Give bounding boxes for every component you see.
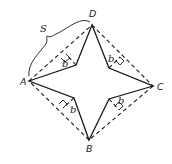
star-square-diagram: A D C B S b b b b — [0, 0, 172, 164]
side-brace — [29, 21, 90, 76]
vertex-label-B: B — [86, 143, 93, 154]
square-outline — [29, 25, 153, 140]
vertex-label-A: A — [19, 76, 27, 87]
right-angle-icon — [59, 100, 67, 108]
height-label-b: b — [108, 53, 114, 64]
four-pointed-star — [29, 25, 153, 140]
side-label-S: S — [40, 23, 47, 34]
vertex-label-C: C — [157, 81, 164, 92]
right-angle-icon — [116, 57, 124, 65]
edge-BA — [29, 81, 89, 140]
height-label-b: b — [62, 58, 68, 69]
height-label-b: b — [118, 95, 124, 106]
vertex-label-D: D — [89, 8, 96, 19]
height-label-b: b — [70, 104, 76, 115]
edge-DC — [92, 25, 153, 86]
